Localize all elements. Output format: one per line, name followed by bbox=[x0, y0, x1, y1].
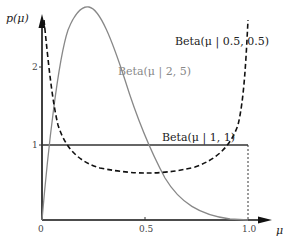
y-axis-label: p(μ) bbox=[6, 12, 29, 25]
x-tick-label-0: 0 bbox=[38, 224, 44, 234]
beta-distribution-chart: p(μ) μ 1 2 0 0.5 1.0 Beta(μ | 0.5, 0.5) … bbox=[0, 0, 286, 247]
legend-beta-05-05: Beta(μ | 0.5, 0.5) bbox=[175, 35, 269, 49]
x-axis-label: μ bbox=[276, 224, 283, 237]
legend-beta-2-5: Beta(μ | 2, 5) bbox=[118, 65, 191, 79]
legend-beta-1-1: Beta(μ | 1, 1) bbox=[162, 131, 235, 145]
x-axis-arrow-icon bbox=[258, 217, 272, 224]
y-tick-label-1: 1 bbox=[32, 140, 38, 150]
x-tick-label-05: 0.5 bbox=[139, 224, 154, 234]
y-tick-label-2: 2 bbox=[32, 62, 38, 72]
x-tick-label-1: 1.0 bbox=[242, 224, 257, 234]
